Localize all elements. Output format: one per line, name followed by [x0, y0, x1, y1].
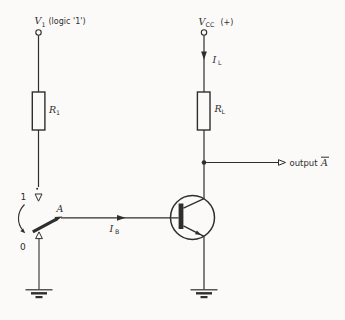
circuit-diagram-canvas: V 1 (logic '1') V CC (+) I L R 1 R L I B…	[0, 0, 345, 320]
ground-symbol-right-icon	[191, 290, 218, 297]
vcc-label-suffix: (+)	[221, 18, 234, 27]
transistor-base-bar	[179, 204, 184, 230]
switch-pos0-label: 0	[20, 242, 26, 252]
output-word-label: output	[290, 158, 319, 168]
switch-pivot-arrowhead-icon	[36, 232, 43, 239]
base-wire-group	[61, 215, 179, 221]
circuit-diagram: V 1 (logic '1') V CC (+) I L R 1 R L I B…	[0, 0, 345, 320]
output-signal-label: A	[320, 157, 328, 168]
ground-symbol-left-icon	[26, 290, 53, 297]
v1-label-sub: 1	[42, 21, 46, 28]
vcc-terminal-icon	[201, 30, 206, 35]
vcc-label-sub: CC	[206, 21, 215, 28]
resistor-rl-body	[197, 92, 210, 130]
switch-blade-arrowhead-icon	[55, 216, 63, 221]
switch-arc-arrowhead-icon	[20, 229, 25, 234]
input-branch	[32, 30, 45, 201]
ib-label: I	[109, 223, 114, 234]
ib-label-sub: B	[115, 228, 119, 235]
switch-pos1-label: 1	[21, 192, 27, 202]
il-label-sub: L	[218, 59, 222, 66]
switch-blade[interactable]	[33, 219, 57, 232]
contact1-arrowhead-icon	[35, 194, 42, 201]
switch-node-label: A	[56, 203, 64, 214]
output-arrowhead-icon	[279, 160, 286, 166]
ib-current-arrowhead-icon	[117, 215, 126, 221]
load-branch	[197, 30, 285, 290]
il-label: I	[212, 54, 217, 65]
r1-label: R	[48, 104, 56, 115]
labels: V 1 (logic '1') V CC (+) I L R 1 R L I B…	[20, 15, 329, 252]
v1-terminal-icon	[36, 30, 41, 35]
rl-label: R	[214, 103, 222, 114]
transistor-emitter-arrowhead-icon	[195, 230, 201, 235]
switch-throw-arc	[18, 205, 24, 231]
resistor-r1-body	[32, 92, 45, 130]
transistor-collector-lead	[183, 199, 204, 209]
contact1-dot	[36, 188, 38, 190]
v1-label-suffix: (logic '1')	[49, 17, 86, 26]
il-current-arrowhead-icon	[201, 52, 207, 60]
r1-label-sub: 1	[56, 109, 60, 116]
rl-label-sub: L	[222, 108, 226, 115]
